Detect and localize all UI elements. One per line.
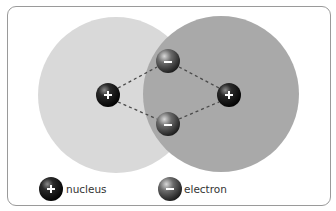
electron-icon [158,177,182,201]
nucleus-icon [39,177,63,201]
legend-label-electron: electron [184,183,227,195]
electron-bottom [156,112,180,136]
nucleus-right [217,83,241,107]
electron-top [156,49,180,73]
legend-label-nucleus: nucleus [66,183,107,195]
nucleus-left [96,83,120,107]
covalent-bond-diagram [0,0,336,211]
